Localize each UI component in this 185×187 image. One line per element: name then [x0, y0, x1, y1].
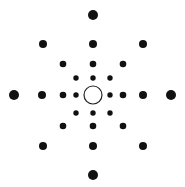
dot [73, 75, 78, 80]
dot [139, 91, 147, 99]
center-circle [84, 86, 102, 104]
dot [166, 90, 176, 100]
dot [107, 75, 112, 80]
dot [107, 110, 112, 115]
dot [9, 90, 19, 100]
dot [60, 123, 67, 130]
dot [90, 110, 95, 115]
dot [120, 92, 127, 99]
dot [73, 110, 78, 115]
dot [39, 40, 47, 48]
dot [60, 92, 67, 99]
dot [107, 92, 112, 97]
dot [90, 123, 97, 130]
dot [120, 123, 127, 130]
dot [89, 142, 97, 150]
dot [38, 91, 46, 99]
dot [88, 10, 98, 20]
dot [39, 142, 47, 150]
dot [73, 92, 78, 97]
dot [88, 170, 98, 180]
radial-dot-diagram [0, 0, 185, 187]
dot [120, 61, 127, 68]
dot [89, 40, 97, 48]
dot [139, 40, 147, 48]
dot [60, 61, 67, 68]
dot [90, 75, 95, 80]
dot [90, 61, 97, 68]
dot [139, 142, 147, 150]
